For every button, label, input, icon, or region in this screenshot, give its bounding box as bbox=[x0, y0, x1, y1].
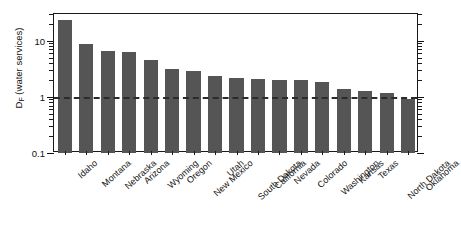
x-tick bbox=[279, 151, 280, 155]
x-tick bbox=[301, 151, 302, 155]
bar-idaho[interactable] bbox=[58, 20, 72, 153]
y-tick-minor bbox=[49, 70, 54, 71]
x-tick bbox=[408, 151, 409, 155]
y-tick-minor-right bbox=[417, 24, 422, 25]
x-tick bbox=[172, 151, 173, 155]
y-tick-minor bbox=[49, 49, 54, 50]
y-tick-minor-right bbox=[417, 102, 422, 103]
bar-oregon[interactable] bbox=[165, 69, 179, 153]
x-tick bbox=[129, 151, 130, 155]
x-tick bbox=[387, 151, 388, 155]
x-tick bbox=[86, 151, 87, 155]
x-tick bbox=[322, 151, 323, 155]
y-tick-minor-right bbox=[417, 53, 422, 54]
y-tick-label: 1 bbox=[40, 91, 45, 102]
x-tick bbox=[151, 151, 152, 155]
y-axis-title-subscript: F bbox=[18, 97, 25, 101]
plot-area: 1010.1 bbox=[53, 13, 418, 152]
bar-washington[interactable] bbox=[315, 82, 329, 153]
y-tick-minor-right bbox=[417, 106, 422, 107]
y-tick-minor-right bbox=[417, 70, 422, 71]
bar-nebraska[interactable] bbox=[101, 51, 115, 153]
y-tick-minor-right bbox=[417, 46, 422, 47]
y-axis-title-rest: (water services) bbox=[13, 28, 24, 98]
y-tick-minor bbox=[49, 46, 54, 47]
y-tick-label: 10 bbox=[34, 35, 45, 46]
y-tick-minor bbox=[49, 53, 54, 54]
reference-line-1 bbox=[54, 97, 417, 99]
y-tick-minor-right bbox=[417, 119, 422, 120]
bar-south-dakota[interactable] bbox=[229, 78, 243, 153]
bar-nevada[interactable] bbox=[272, 80, 286, 153]
y-tick-minor-right bbox=[417, 80, 422, 81]
y-tick-minor bbox=[49, 136, 54, 137]
y-tick-minor bbox=[49, 58, 54, 59]
bar-utah[interactable] bbox=[208, 76, 222, 153]
y-tick-minor-right bbox=[417, 14, 422, 15]
y-tick-minor bbox=[49, 14, 54, 15]
x-tick-label: Idaho bbox=[76, 158, 99, 181]
y-tick-major bbox=[47, 97, 54, 98]
x-tick bbox=[194, 151, 195, 155]
bar-north-dakota[interactable] bbox=[380, 93, 394, 153]
bar-texas[interactable] bbox=[358, 91, 372, 153]
y-tick-minor-right bbox=[417, 43, 422, 44]
bar-new-mexico[interactable] bbox=[186, 71, 200, 153]
y-tick-minor-right bbox=[417, 99, 422, 100]
y-axis-title-base: D bbox=[13, 102, 24, 109]
y-tick-minor bbox=[49, 80, 54, 81]
y-tick-major bbox=[47, 153, 54, 154]
y-tick-minor bbox=[49, 119, 54, 120]
y-tick-major-right bbox=[417, 97, 424, 98]
x-tick bbox=[237, 151, 238, 155]
y-tick-minor bbox=[49, 114, 54, 115]
y-tick-minor-right bbox=[417, 63, 422, 64]
bar-california[interactable] bbox=[251, 79, 265, 153]
x-tick bbox=[344, 151, 345, 155]
y-tick-minor-right bbox=[417, 126, 422, 127]
y-tick-minor-right bbox=[417, 136, 422, 137]
x-tick bbox=[215, 151, 216, 155]
y-tick-minor bbox=[49, 24, 54, 25]
x-tick bbox=[258, 151, 259, 155]
y-tick-label: 0.1 bbox=[32, 148, 45, 159]
y-tick-minor bbox=[49, 126, 54, 127]
y-tick-minor bbox=[49, 106, 54, 107]
bar-arizona[interactable] bbox=[122, 52, 136, 153]
y-tick-minor bbox=[49, 63, 54, 64]
bar-wyoming[interactable] bbox=[144, 60, 158, 153]
y-tick-major bbox=[47, 41, 54, 42]
y-axis-title: DF (water services) bbox=[13, 0, 29, 138]
y-tick-minor bbox=[49, 109, 54, 110]
y-tick-minor bbox=[49, 99, 54, 100]
x-tick bbox=[365, 151, 366, 155]
y-tick-minor-right bbox=[417, 114, 422, 115]
y-tick-minor bbox=[49, 102, 54, 103]
y-tick-minor-right bbox=[417, 58, 422, 59]
y-tick-major-right bbox=[417, 153, 424, 154]
x-tick bbox=[108, 151, 109, 155]
y-tick-minor bbox=[49, 43, 54, 44]
y-tick-minor-right bbox=[417, 109, 422, 110]
bar-oklahoma[interactable] bbox=[401, 99, 415, 153]
y-tick-minor-right bbox=[417, 49, 422, 50]
bar-colorado[interactable] bbox=[294, 80, 308, 153]
y-tick-major-right bbox=[417, 41, 424, 42]
x-tick bbox=[65, 151, 66, 155]
